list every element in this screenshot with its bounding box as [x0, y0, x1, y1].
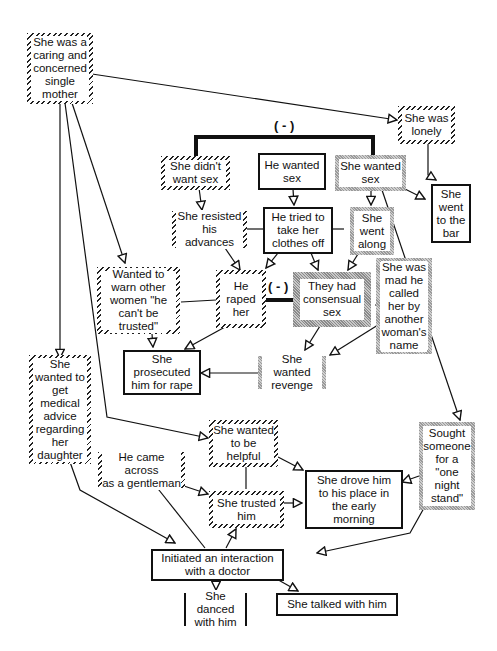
edge-mad-revenge	[330, 325, 378, 355]
node-didnt-want-sex[interactable]: She didn't want sex	[161, 156, 230, 190]
node-mad-name[interactable]: She was mad he called her by another wom…	[376, 258, 432, 354]
node-drove-him[interactable]: She drove him to his place in the early …	[305, 470, 403, 529]
node-gentleman[interactable]: He came across as a gentleman	[98, 452, 185, 488]
node-one-night[interactable]: Sought someone for a "one night stand"	[419, 422, 475, 510]
edge-tried-raped	[266, 253, 278, 268]
edge-gentleman-trusted	[184, 486, 208, 494]
node-danced[interactable]: She danced with him	[184, 593, 247, 626]
edge-onenight-drove	[402, 476, 419, 482]
edge-mother-lonely	[92, 74, 397, 120]
edge-raped-prosecuted	[185, 327, 225, 349]
edge-lonely-bar	[428, 144, 436, 180]
edge-trusted-initiated	[226, 529, 236, 548]
node-warn-women[interactable]: Wanted to warn other women "he can't be …	[97, 267, 180, 334]
node-tried-clothes[interactable]: He tried to take her clothes off	[263, 207, 333, 254]
node-initiated[interactable]: Initiated an interaction with a doctor	[151, 549, 284, 581]
edge-consensual-revenge	[305, 326, 320, 350]
node-caring-mother[interactable]: She was a caring and concerned single mo…	[27, 33, 93, 104]
node-went-along[interactable]: She went along	[350, 207, 394, 255]
edge-helpful-drove	[278, 457, 303, 470]
edge-mother-warn	[72, 103, 125, 263]
node-prosecuted[interactable]: She prosecuted him for rape	[123, 350, 201, 395]
node-resisted[interactable]: She resisted his advances	[172, 211, 247, 248]
node-she-wanted-sex[interactable]: She wanted sex	[335, 155, 406, 191]
node-helpful[interactable]: She wanted to be helpful	[209, 420, 278, 467]
edge-sex-bar	[403, 188, 425, 199]
node-medical-advice[interactable]: She wanted to get medical advice regardi…	[29, 355, 91, 464]
node-consensual[interactable]: They had consensual sex	[293, 272, 371, 327]
node-raped-her[interactable]: He raped her	[216, 270, 266, 328]
edge-along-consensual	[348, 254, 358, 270]
node-lonely[interactable]: She was lonely	[398, 106, 455, 144]
node-revenge[interactable]: She wanted revenge	[258, 356, 326, 389]
node-went-to-bar[interactable]: She went to the bar	[431, 184, 471, 243]
conflict-label-top: ( - )	[274, 118, 294, 133]
edge-resisted-raped	[225, 248, 240, 270]
edge-tried-consensual	[311, 253, 318, 270]
edge-he-tried	[293, 189, 294, 205]
node-talked[interactable]: She talked with him	[276, 593, 398, 616]
conflict-label-middle: ( - )	[268, 279, 288, 294]
edge-gentleman-initiated	[155, 485, 205, 548]
node-he-wanted-sex[interactable]: He wanted sex	[258, 153, 326, 190]
edge-didnt-resisted	[199, 188, 202, 210]
edge-warn-raped	[181, 300, 216, 302]
edge-warn-prosecuted	[152, 334, 153, 347]
node-trusted[interactable]: She trusted him	[209, 491, 284, 528]
